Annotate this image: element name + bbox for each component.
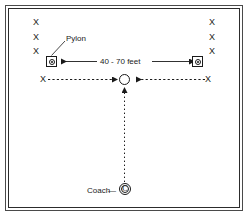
player-x-right-1: X [209, 18, 215, 27]
pylon-right-ring [195, 59, 201, 65]
player-x-left-3: X [33, 47, 39, 56]
player-x-right-3: X [209, 47, 215, 56]
ball-icon [119, 74, 130, 85]
pylon-label: Pylon [66, 34, 86, 43]
pylon-left-icon [46, 56, 57, 67]
coach-dash: — [108, 186, 116, 195]
pylon-right-icon [192, 56, 203, 67]
pylon-left-ring [49, 59, 55, 65]
pylon-leader-line [52, 41, 66, 56]
player-x-left-runner: X [40, 75, 46, 84]
distance-label: 40 - 70 feet [98, 57, 142, 66]
drill-diagram: X X X X X X X X Pylon 40 - 70 feet Coach… [0, 0, 249, 218]
player-x-right-runner: X [205, 75, 211, 84]
player-x-left-1: X [33, 18, 39, 27]
player-x-right-2: X [209, 33, 215, 42]
pylon-right-dot [197, 61, 199, 63]
coach-token-inner-ring [121, 185, 129, 193]
coach-token: C [119, 183, 131, 195]
player-x-left-2: X [33, 33, 39, 42]
coach-label: Coach [87, 186, 110, 195]
pylon-left-dot [51, 61, 53, 63]
